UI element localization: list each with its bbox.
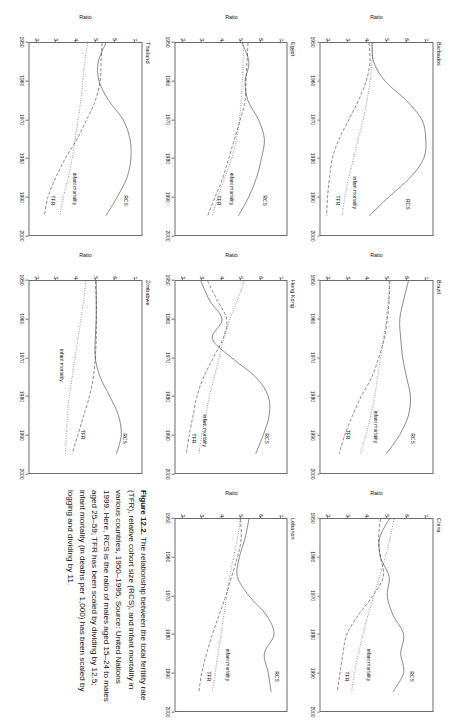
x-axis-tick-label: 1990	[309, 192, 315, 203]
series-annotation: RCS	[409, 433, 415, 444]
x-axis-tick-label: 1970	[309, 590, 315, 601]
series-annotation: infant mortality	[372, 411, 378, 444]
series-line-infant-mortality	[212, 43, 243, 216]
series-annotation: infant mortality	[224, 649, 230, 682]
series-annotation: infant mortality	[201, 414, 207, 447]
x-axis-tick-label: 1970	[18, 114, 24, 125]
x-axis-tick-label: 1950	[309, 512, 315, 523]
x-axis-tick-label: 1950	[309, 36, 315, 47]
x-axis-tick-label: 1990	[18, 192, 24, 203]
y-axis-label-text: Ratio	[370, 252, 383, 258]
panel-title: Barbados	[435, 42, 441, 66]
y-axis-label-text: Ratio	[79, 252, 92, 258]
x-axis-tick-label: 1990	[18, 430, 24, 441]
figure-caption: Figure 12.2. The relationship between th…	[10, 488, 150, 716]
x-axis-tick-label: 2000	[164, 230, 170, 241]
y-axis-label-text: Ratio	[79, 14, 92, 20]
series-annotation: RCS	[408, 671, 414, 682]
plot-area: RCSinfant mortalityTFR	[174, 518, 288, 712]
x-axis: 195019601970198019902000	[16, 280, 28, 474]
x-axis-tick-label: 2000	[18, 230, 24, 241]
y-axis-label: Ratio	[319, 11, 433, 23]
x-axis-tick-label: 1980	[309, 391, 315, 402]
x-axis-tick-label: 1990	[309, 668, 315, 679]
chart-panel-zimbabwe: ZimbabweRatio765432195019601970198019902…	[10, 250, 150, 478]
series-annotation: TFR	[190, 434, 196, 444]
series-annotation: infant mortality	[71, 173, 77, 206]
series-line-rcs	[368, 43, 425, 216]
plot-area: RCSinfant mortalityTFR	[319, 280, 433, 474]
series-line-rcs	[378, 519, 403, 692]
x-axis-tick-label: 1950	[164, 36, 170, 47]
series-line-tfr	[207, 43, 247, 216]
series-line-tfr	[199, 519, 241, 692]
series-line-rcs	[238, 43, 264, 216]
x-axis-tick-label: 1980	[309, 629, 315, 640]
series-annotation: TFR	[205, 672, 211, 682]
series-annotation: infant mortality	[365, 649, 371, 682]
series-annotation: TFR	[344, 430, 350, 440]
series-annotation: TFR	[215, 196, 221, 206]
x-axis-tick-label: 2000	[309, 706, 315, 717]
plot-area: RCSinfant mortalityTFR	[319, 42, 433, 236]
x-axis-tick-label: 1950	[164, 274, 170, 285]
series-line-rcs	[97, 43, 131, 216]
plot-area: RCSinfant mortalityTFR	[174, 42, 288, 236]
y-axis-label-text: Ratio	[224, 490, 237, 496]
x-axis-tick-label: 1990	[164, 430, 170, 441]
series-line-rcs	[201, 281, 270, 454]
x-axis-tick-label: 1950	[18, 274, 24, 285]
x-axis-tick-label: 1960	[309, 75, 315, 86]
series-annotation: TFR	[334, 196, 340, 206]
x-axis-tick-label: 1960	[18, 75, 24, 86]
panel-title: Zimbabwe	[144, 280, 150, 306]
x-axis: 195019601970198019902000	[162, 42, 174, 236]
series-canvas	[175, 519, 287, 711]
chart-panel-china: ChinaRatio765432195019601970198019902000…	[301, 488, 441, 716]
y-axis-label: Ratio	[174, 487, 288, 499]
x-axis-tick-label: 1990	[164, 668, 170, 679]
plot-area: RCSinfant mortalityTFR	[174, 280, 288, 474]
x-axis-tick-label: 1960	[164, 75, 170, 86]
series-annotation: TFR	[79, 430, 85, 440]
y-axis: 765432	[28, 264, 142, 280]
series-line-tfr	[326, 43, 369, 216]
y-axis: 765432	[319, 264, 433, 280]
x-axis-tick-label: 1980	[309, 153, 315, 164]
series-line-rcs	[237, 519, 274, 692]
panel-title: China	[435, 518, 441, 533]
series-line-infant-mortality	[351, 519, 393, 692]
panel-title: Hong Kong	[289, 280, 295, 308]
x-axis-tick-label: 2000	[164, 706, 170, 717]
figure-caption-label: Figure 12.2.	[138, 490, 147, 535]
series-canvas	[320, 281, 432, 473]
series-line-infant-mortality	[65, 281, 85, 454]
figure-caption-paragraph: Figure 12.2. The relationship between th…	[63, 490, 148, 706]
series-canvas	[29, 281, 141, 473]
x-axis-tick-label: 2000	[18, 468, 24, 479]
series-annotation: RCS	[404, 199, 410, 210]
x-axis-tick-label: 1980	[18, 391, 24, 402]
y-axis-label-text: Ratio	[370, 14, 383, 20]
panel-title: Thailand	[144, 42, 150, 63]
y-axis-label-text: Ratio	[224, 14, 237, 20]
x-axis-tick-label: 1960	[18, 313, 24, 324]
x-axis-tick-label: 1960	[309, 551, 315, 562]
series-annotation: infant mortality	[228, 173, 234, 206]
chart-panel-brazil: BrazilRatio76543219501960197019801990200…	[301, 250, 441, 478]
series-annotation: TFR	[49, 196, 55, 206]
series-canvas	[320, 43, 432, 235]
x-axis-tick-label: 1950	[18, 36, 24, 47]
small-multiples-figure: BarbadosRatio765432195019601970198019902…	[0, 0, 455, 726]
x-axis-tick-label: 1970	[18, 352, 24, 363]
x-axis-tick-label: 1950	[309, 274, 315, 285]
plot-area: RCSinfant mortalityTFR	[28, 42, 142, 236]
x-axis-tick-label: 1990	[309, 430, 315, 441]
y-axis: 765432	[319, 26, 433, 42]
figure-caption-body: The relationship between the total ferti…	[65, 490, 147, 702]
series-line-tfr	[337, 519, 383, 692]
chart-panel-egypt: EgyptRatio765432195019601970198019902000…	[156, 12, 296, 240]
series-canvas	[29, 43, 141, 235]
series-line-tfr	[339, 281, 389, 454]
series-annotation: infant mortality	[351, 176, 357, 209]
